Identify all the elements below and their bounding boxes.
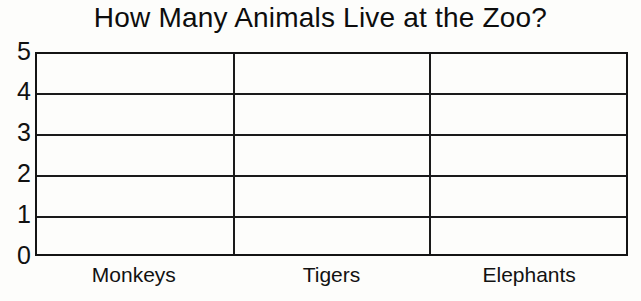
x-category-label-elephants: Elephants	[430, 260, 628, 294]
x-category-label-monkeys: Monkeys	[35, 260, 233, 294]
bar-chart-worksheet: How Many Animals Live at the Zoo? 5 4 3 …	[0, 0, 641, 301]
bars-layer[interactable]	[37, 54, 626, 254]
x-category-label-tigers: Tigers	[233, 260, 431, 294]
y-tick-label-3: 3	[1, 120, 31, 145]
y-tick-label-4: 4	[1, 79, 31, 104]
y-tick-label-5: 5	[1, 39, 31, 64]
chart-title: How Many Animals Live at the Zoo?	[0, 1, 641, 35]
y-tick-label-0: 0	[1, 243, 31, 268]
y-tick-label-2: 2	[1, 161, 31, 186]
x-axis: Monkeys Tigers Elephants	[35, 260, 628, 294]
y-tick-label-1: 1	[1, 202, 31, 227]
y-axis: 5 4 3 2 1 0	[0, 0, 35, 301]
plot-area[interactable]	[35, 52, 628, 256]
